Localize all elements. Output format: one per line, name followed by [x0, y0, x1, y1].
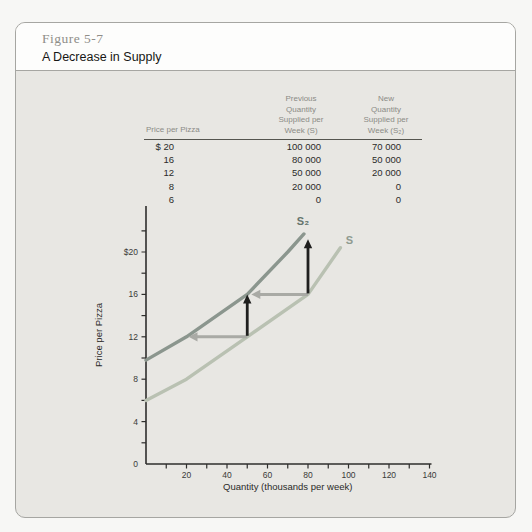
- cell-price: $ 20: [144, 141, 216, 153]
- x-tick-label: 40: [222, 470, 232, 480]
- curve-label-s2: S₂: [297, 215, 309, 227]
- curve-label-s: S: [346, 234, 353, 246]
- cell-new-quantity: 20 000: [329, 167, 422, 179]
- table-row: $ 20 100 000 70 000: [144, 141, 422, 153]
- cell-new-quantity: 50 000: [329, 154, 422, 166]
- y-axis-title: Price per Pizza: [93, 302, 104, 367]
- table-row: 16 80 000 50 000: [144, 154, 422, 166]
- cell-previous-quantity: 20 000: [216, 181, 329, 193]
- figure-label: Figure 5-7: [42, 31, 515, 47]
- cell-price: 12: [144, 167, 216, 179]
- x-axis-title: Quantity (thousands per week): [223, 481, 352, 492]
- cell-previous-quantity: 100 000: [216, 141, 329, 153]
- cell-previous-quantity: 50 000: [216, 167, 329, 179]
- chart-svg: $20161284020406080100120140SS₂Quantity (…: [46, 193, 486, 495]
- figure-card: Figure 5-7 A Decrease in Supply Price pe…: [15, 22, 516, 518]
- y-tick-label: 4: [133, 417, 138, 427]
- page-background: Figure 5-7 A Decrease in Supply Price pe…: [0, 0, 532, 532]
- y-tick-label: 16: [129, 289, 139, 299]
- column-header-price: Price per Pizza: [146, 125, 200, 136]
- y-tick-label: 0: [133, 459, 138, 469]
- cell-new-quantity: 0: [329, 181, 422, 193]
- x-tick-label: 120: [382, 470, 396, 480]
- column-header-new-quantity: New Quantity Supplied per Week (S₂): [328, 94, 444, 136]
- supply-curve-s: [146, 248, 340, 401]
- table-row: 8 20 000 0: [144, 181, 422, 193]
- x-tick-label: 60: [263, 470, 273, 480]
- supply-chart: $20161284020406080100120140SS₂Quantity (…: [46, 193, 486, 495]
- price-arrow-head: [304, 239, 312, 248]
- x-tick-label: 140: [422, 470, 436, 480]
- figure-title: A Decrease in Supply: [42, 50, 515, 64]
- x-tick-label: 20: [182, 470, 192, 480]
- table-header-row: Price per Pizza Previous Quantity Suppli…: [144, 89, 422, 136]
- supply-curve-s2: [146, 234, 304, 360]
- x-tick-label: 80: [303, 470, 313, 480]
- y-tick-label: $20: [124, 247, 138, 257]
- table-row: 12 50 000 20 000: [144, 167, 422, 179]
- figure-header: Figure 5-7 A Decrease in Supply: [16, 23, 515, 71]
- table-header-rule: [144, 139, 422, 140]
- cell-previous-quantity: 80 000: [216, 154, 329, 166]
- y-tick-label: 8: [133, 374, 138, 384]
- cell-price: 16: [144, 154, 216, 166]
- supply-schedule-table: Price per Pizza Previous Quantity Suppli…: [144, 89, 422, 206]
- cell-price: 8: [144, 181, 216, 193]
- cell-new-quantity: 70 000: [329, 141, 422, 153]
- x-tick-label: 100: [341, 470, 355, 480]
- y-tick-label: 12: [129, 332, 139, 342]
